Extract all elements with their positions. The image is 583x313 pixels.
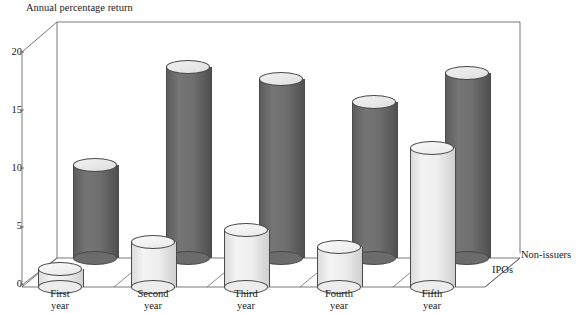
bar-ipos-third-year <box>224 223 268 287</box>
cylinder-body <box>224 230 270 287</box>
bar-non-issuers-fourth-year <box>352 95 396 258</box>
x-tick-line1: Second <box>113 288 193 300</box>
bar-non-issuers-first-year <box>73 158 117 258</box>
cylinder-top-ellipse <box>166 60 210 74</box>
cylinder-top-ellipse <box>224 223 268 237</box>
cylinder-body <box>166 67 212 258</box>
x-tick-line2: year <box>392 300 472 312</box>
cylinder-top-ellipse <box>445 66 489 80</box>
x-tick-label-third-year: Third year <box>206 288 286 312</box>
bar-ipos-fourth-year <box>317 240 361 287</box>
x-tick-line1: First <box>20 288 100 300</box>
cylinder-top-ellipse <box>317 240 361 254</box>
x-tick-line1: Third <box>206 288 286 300</box>
chart-3d-cylinder: Annual percentage return 20 15 10 5 0 <box>0 0 583 313</box>
bar-ipos-fifth-year <box>410 141 454 287</box>
bar-ipos-second-year <box>131 235 175 287</box>
legend-label-non-issuers: Non-issuers <box>521 249 571 260</box>
bar-non-issuers-second-year <box>166 60 210 258</box>
cylinder-body <box>73 165 119 258</box>
x-tick-label-fourth-year: Fourth year <box>299 288 379 312</box>
x-tick-line1: Fourth <box>299 288 379 300</box>
x-tick-line2: year <box>20 300 100 312</box>
cylinder-top-ellipse <box>73 158 117 172</box>
x-tick-line1: Fifth <box>392 288 472 300</box>
cylinder-body <box>352 102 398 258</box>
cylinder-top-ellipse <box>352 95 396 109</box>
x-tick-line2: year <box>113 300 193 312</box>
x-tick-label-fifth-year: Fifth year <box>392 288 472 312</box>
x-tick-label-second-year: Second year <box>113 288 193 312</box>
cylinder-body <box>410 148 456 287</box>
cylinder-top-ellipse <box>38 262 82 276</box>
cylinder-top-ellipse <box>410 141 454 155</box>
cylinder-top-ellipse <box>131 235 175 249</box>
x-tick-line2: year <box>299 300 379 312</box>
x-tick-label-first-year: First year <box>20 288 100 312</box>
legend-label-ipos: IPOs <box>492 264 513 275</box>
bar-ipos-first-year <box>38 262 82 287</box>
cylinder-top-ellipse <box>259 72 303 86</box>
x-tick-line2: year <box>206 300 286 312</box>
